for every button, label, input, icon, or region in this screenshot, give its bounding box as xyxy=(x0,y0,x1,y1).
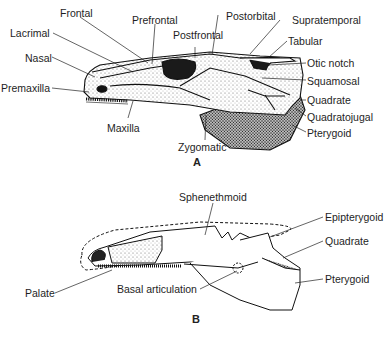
label-zygomatic: Zygomatic xyxy=(178,141,226,153)
panel-label-a: A xyxy=(193,156,201,168)
label-maxilla: Maxilla xyxy=(107,122,140,134)
label-quadratojugal: Quadratojugal xyxy=(307,111,373,123)
label-sphenethmoid: Sphenethmoid xyxy=(179,191,247,203)
label-frontal: Frontal xyxy=(60,7,93,19)
label-pterygoid-b: Pterygoid xyxy=(325,273,369,285)
label-squamosal: Squamosal xyxy=(307,75,360,87)
label-premaxilla: Premaxilla xyxy=(1,82,50,94)
label-tabular: Tabular xyxy=(288,35,322,47)
label-prefrontal: Prefrontal xyxy=(132,14,178,26)
label-basal-articulation: Basal articulation xyxy=(117,283,197,295)
label-postorbital: Postorbital xyxy=(226,10,276,22)
label-otic-notch: Otic notch xyxy=(307,57,354,69)
panel-label-b: B xyxy=(192,313,200,325)
label-lacrimal: Lacrimal xyxy=(10,27,50,39)
label-postfrontal: Postfrontal xyxy=(173,29,223,41)
label-quadrate-a: Quadrate xyxy=(307,94,351,106)
braincase-view xyxy=(81,222,300,310)
label-supratemporal: Supratemporal xyxy=(292,14,361,26)
label-palate: Palate xyxy=(25,287,55,299)
label-quadrate-b: Quadrate xyxy=(325,235,369,247)
skull-lateral-view xyxy=(84,52,305,150)
label-pterygoid-a: Pterygoid xyxy=(307,127,351,139)
label-epipterygoid: Epipterygoid xyxy=(325,211,383,223)
label-nasal: Nasal xyxy=(25,52,52,64)
